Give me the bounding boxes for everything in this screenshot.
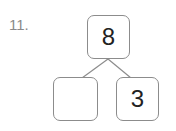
part-box-left-answer[interactable] [53, 77, 98, 121]
part-box-right: 3 [116, 77, 159, 121]
whole-box: 8 [87, 15, 130, 59]
